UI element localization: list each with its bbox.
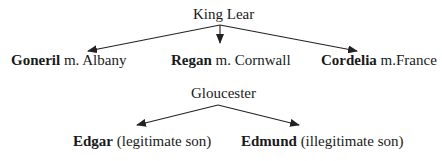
child-name: Regan (171, 52, 212, 68)
child-edgar: Edgar (legitimate son) (73, 134, 211, 149)
child-name: Edgar (73, 133, 113, 149)
child-note: m.France (381, 52, 437, 68)
arrow-to-edmund (218, 105, 299, 125)
child-edmund: Edmund (illegitimate son) (241, 134, 404, 149)
arrow-to-goneril (88, 25, 220, 51)
child-regan: Regan m. Cornwall (171, 53, 291, 68)
child-note: (illegitimate son) (301, 133, 404, 149)
king-lear-arrows (88, 25, 357, 51)
child-name: Edmund (241, 133, 297, 149)
child-name: Cordelia (321, 52, 377, 68)
parent-name: Gloucester (191, 85, 256, 101)
parent-king-lear: King Lear (193, 7, 254, 22)
arrow-to-edgar (137, 105, 218, 125)
child-note: m. Albany (64, 52, 127, 68)
child-cordelia: Cordelia m.France (321, 53, 437, 68)
parent-gloucester: Gloucester (191, 86, 256, 101)
child-goneril: Goneril m. Albany (11, 53, 126, 68)
gloucester-arrows (137, 105, 299, 125)
child-note: (legitimate son) (117, 133, 212, 149)
child-name: Goneril (11, 52, 60, 68)
arrow-to-cordelia (220, 25, 357, 51)
parent-name: King Lear (193, 6, 254, 22)
child-note: m. Cornwall (216, 52, 291, 68)
